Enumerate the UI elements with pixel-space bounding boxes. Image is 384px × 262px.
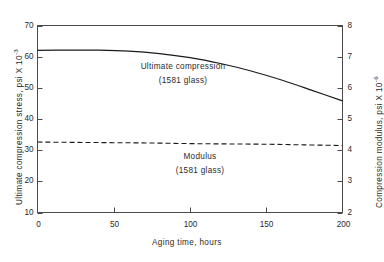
y-axis-left-tick-10: 10 [12, 208, 34, 217]
x-axis-tick-100: 100 [176, 220, 206, 229]
y-axis-left-tick-20: 20 [12, 176, 34, 185]
y-axis-right-tick-2: 2 [348, 208, 362, 217]
y-axis-left-tick-50: 50 [12, 83, 34, 92]
y-axis-right-tick-3: 3 [348, 176, 362, 185]
x-axis-title: Aging time, hours [152, 238, 222, 247]
axis-ticks [38, 27, 343, 214]
y-axis-right-tick-7: 7 [348, 52, 362, 61]
x-axis-tick-0: 0 [24, 220, 54, 229]
y-axis-right-title: Compression modulus, psi X 10-6 [372, 76, 384, 208]
y-axis-left-tick-70: 70 [12, 21, 34, 30]
x-axis-tick-50: 50 [100, 220, 130, 229]
modulus-annotation: Modulus [145, 152, 255, 161]
y-axis-right-tick-6: 6 [348, 83, 362, 92]
plot-frame [38, 26, 343, 213]
y-axis-right-exponent: -6 [372, 76, 379, 82]
y-axis-right-tick-5: 5 [348, 114, 362, 123]
y-axis-right-tick-4: 4 [348, 145, 362, 154]
y-axis-left-tick-40: 40 [12, 114, 34, 123]
modulus-annotation-sub: (1581 glass) [145, 166, 255, 175]
y-axis-left-tick-30: 30 [12, 145, 34, 154]
y-axis-right-title-text: Compression modulus, psi X 10 [375, 82, 384, 208]
x-axis-tick-200: 200 [329, 220, 359, 229]
ultimate-compression-annotation-sub: (1581 glass) [118, 76, 248, 85]
y-axis-left-tick-60: 60 [12, 52, 34, 61]
x-axis-tick-150: 150 [252, 220, 282, 229]
ultimate-compression-annotation: Ultimate compression [118, 62, 248, 71]
y-axis-right-tick-8: 8 [348, 21, 362, 30]
series-line-modulus [38, 142, 343, 145]
